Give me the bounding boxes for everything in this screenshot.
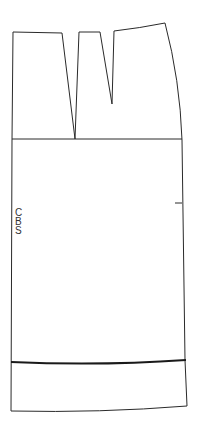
label-s: S (15, 225, 22, 236)
pattern-outline (11, 23, 187, 411)
hem-fold-line (11, 360, 186, 364)
pattern-diagram: C B S (0, 0, 197, 437)
